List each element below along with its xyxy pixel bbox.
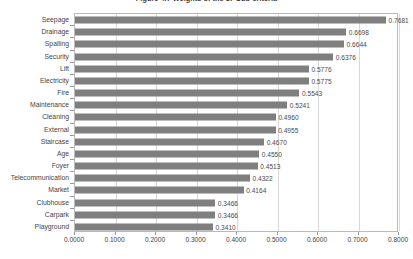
bar-value-label: 0.3410 [213, 223, 236, 230]
bar-value-label: 0.4550 [259, 150, 282, 157]
bar [75, 223, 213, 230]
bar-row: 0.4513 [75, 160, 397, 172]
value-tick [115, 232, 116, 235]
bar [75, 77, 309, 84]
bar-value-label: 0.6644 [344, 41, 367, 48]
bar-value-label: 0.6698 [346, 29, 369, 36]
bar-value-label: 0.3466 [215, 211, 238, 218]
gridline [399, 14, 400, 231]
value-tick [398, 232, 399, 235]
category-axis: SeepageDrainageSpallingSecurityLiftElect… [0, 13, 72, 232]
bar [75, 175, 250, 182]
bar [75, 211, 215, 218]
bar-row: 0.5776 [75, 63, 397, 75]
bar-rows: 0.76810.66980.66440.63760.57760.57750.55… [75, 14, 397, 231]
value-tick-label: 0.5000 [266, 236, 286, 243]
value-tick-label: 0.4000 [226, 236, 246, 243]
bar-value-label: 0.4960 [276, 114, 299, 121]
category-label: Market [48, 186, 69, 193]
category-label: Clubhouse [37, 198, 70, 205]
category-label: Spalling [45, 40, 69, 47]
bar [75, 41, 344, 48]
bar [75, 102, 287, 109]
bar [75, 114, 276, 121]
bar-row: 0.5775 [75, 75, 397, 87]
value-tick-label: 0.3000 [185, 236, 205, 243]
bar [75, 150, 259, 157]
bar-value-label: 0.5776 [309, 65, 332, 72]
bar-row: 0.5543 [75, 87, 397, 99]
bar-row: 0.6644 [75, 38, 397, 50]
bar-row: 0.3466 [75, 197, 397, 209]
value-tick [236, 232, 237, 235]
category-label: Electricity [40, 76, 69, 83]
bar-row: 0.4670 [75, 136, 397, 148]
bar [75, 163, 258, 170]
value-tick-label: 0.2000 [145, 236, 165, 243]
value-tick-label: 0.0000 [64, 236, 84, 243]
bar-row: 0.4955 [75, 124, 397, 136]
category-label: Foyer [52, 162, 69, 169]
value-tick [74, 232, 75, 235]
chart-title: Figure 4.7 Weights of the 17 Sub-criteri… [0, 0, 413, 3]
value-tick [196, 232, 197, 235]
bar-value-label: 0.4955 [276, 126, 299, 133]
value-tick-label: 0.7000 [347, 236, 367, 243]
bar-row: 0.4322 [75, 172, 397, 184]
bar [75, 90, 299, 97]
bar-value-label: 0.4322 [250, 175, 273, 182]
bar-row: 0.6376 [75, 51, 397, 63]
category-label: Drainage [41, 28, 69, 35]
bar [75, 29, 346, 36]
category-label: Seepage [42, 16, 69, 23]
bar-chart: Figure 4.7 Weights of the 17 Sub-criteri… [0, 0, 413, 259]
bar-value-label: 0.7681 [386, 17, 409, 24]
value-tick [155, 232, 156, 235]
bar-value-label: 0.6376 [333, 53, 356, 60]
category-label: External [44, 125, 69, 132]
bar-value-label: 0.4670 [264, 138, 287, 145]
bar [75, 138, 264, 145]
bar-value-label: 0.5775 [309, 77, 332, 84]
bar-value-label: 0.5543 [299, 90, 322, 97]
bar-value-label: 0.4513 [258, 163, 281, 170]
bar-row: 0.3466 [75, 209, 397, 221]
category-label: Lift [60, 64, 69, 71]
bar-row: 0.4960 [75, 111, 397, 123]
bar-row: 0.4164 [75, 184, 397, 196]
plot-area: 0.76810.66980.66440.63760.57760.57750.55… [74, 13, 398, 232]
bar-row: 0.6698 [75, 26, 397, 38]
bar-value-label: 0.3466 [215, 199, 238, 206]
value-tick-label: 0.1000 [104, 236, 124, 243]
value-tick-label: 0.8000 [388, 236, 408, 243]
category-label: Fire [57, 89, 69, 96]
value-tick [358, 232, 359, 235]
category-label: Age [57, 149, 69, 156]
bar [75, 199, 215, 206]
category-label: Telecommunication [11, 174, 69, 181]
bar [75, 53, 333, 60]
value-tick-label: 0.6000 [307, 236, 327, 243]
value-tick [317, 232, 318, 235]
value-axis-labels: 0.00000.10000.20000.30000.40000.50000.60… [74, 236, 398, 248]
bar-row: 0.4550 [75, 148, 397, 160]
bar [75, 17, 386, 24]
category-label: Security [44, 52, 69, 59]
bar [75, 126, 276, 133]
bar-value-label: 0.4164 [244, 187, 267, 194]
category-label: Staircase [41, 137, 69, 144]
bar [75, 187, 244, 194]
category-label: Carpark [45, 210, 69, 217]
category-label: Playground [35, 222, 69, 229]
bar-value-label: 0.5241 [287, 102, 310, 109]
category-label: Maintenance [30, 101, 69, 108]
bar-row: 0.7681 [75, 14, 397, 26]
bar [75, 65, 309, 72]
category-label: Cleaning [42, 113, 69, 120]
bar-row: 0.5241 [75, 99, 397, 111]
value-tick [277, 232, 278, 235]
